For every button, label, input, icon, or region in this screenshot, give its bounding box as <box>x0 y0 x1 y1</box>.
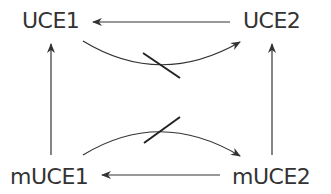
block-slash-top <box>143 53 180 78</box>
edge-muce1-to-muce2-curved <box>83 132 240 156</box>
block-slash-bottom <box>144 117 180 143</box>
node-uce1: UCE1 <box>22 8 79 34</box>
node-muce2: mUCE2 <box>232 164 310 190</box>
node-uce2: UCE2 <box>243 8 300 34</box>
node-muce1: mUCE1 <box>10 164 88 190</box>
diagram-canvas: UCE1 UCE2 mUCE1 mUCE2 <box>0 0 331 194</box>
edge-uce1-to-uce2-curved <box>83 41 240 65</box>
